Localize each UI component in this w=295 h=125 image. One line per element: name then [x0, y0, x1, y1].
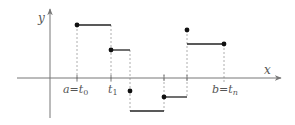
dot — [109, 48, 114, 53]
dot — [185, 28, 190, 33]
tick-label-t1: t1 — [108, 83, 118, 97]
step-function-diagram: y x a=t0 t1 b=tn — [0, 0, 295, 125]
dashed-guides — [77, 25, 224, 111]
dot — [222, 42, 227, 47]
x-axis-label: x — [264, 63, 271, 77]
tick-label-b-tn: b=tn — [212, 83, 238, 97]
tick-label-a-t0: a=t0 — [63, 83, 88, 97]
dot — [162, 95, 167, 100]
dot — [128, 89, 133, 94]
dot — [75, 23, 80, 28]
endpoint-dots — [75, 23, 227, 100]
step-segments — [77, 25, 224, 111]
y-axis-label: y — [37, 11, 45, 25]
